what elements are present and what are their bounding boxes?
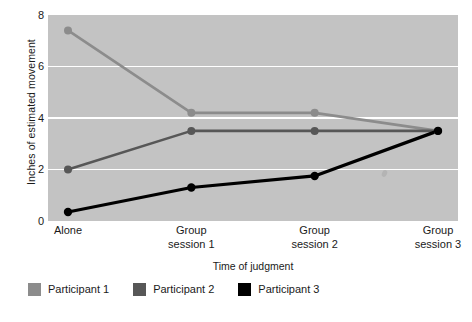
data-point-marker	[187, 183, 195, 191]
legend-item: Participant 1	[28, 283, 109, 296]
y-axis-tick-label: 4	[6, 113, 44, 124]
data-point-marker	[311, 109, 319, 117]
x-axis-tick-label: Alone	[8, 224, 128, 238]
x-axis-tick-labels: AloneGroupsession 1Groupsession 2Groupse…	[48, 224, 458, 258]
legend-label: Participant 1	[48, 284, 109, 295]
y-axis-tick-label: 2	[6, 164, 44, 175]
data-point-marker	[64, 208, 72, 216]
plot-area	[48, 15, 458, 221]
y-axis-tick-labels: 02468	[0, 0, 44, 322]
line-chart-figure: Inches of estimated movement 02468 Alone…	[0, 0, 472, 322]
y-axis-tick-label: 8	[6, 10, 44, 21]
data-point-marker	[64, 26, 72, 34]
x-tick-line-2: session 2	[255, 238, 375, 252]
series-canvas	[48, 15, 458, 221]
data-point-marker	[311, 127, 319, 135]
x-tick-line-1: Alone	[54, 224, 82, 236]
legend-swatch-icon	[238, 283, 251, 296]
data-point-marker	[64, 166, 72, 174]
legend-label: Participant 3	[258, 284, 319, 295]
x-tick-line-2: session 3	[378, 238, 472, 252]
x-axis-tick-label: Groupsession 2	[255, 224, 375, 251]
series-line	[68, 30, 438, 130]
data-point-marker	[187, 109, 195, 117]
x-tick-line-2: session 1	[131, 238, 251, 252]
x-axis-tick-label: Groupsession 3	[378, 224, 472, 251]
data-point-marker	[310, 172, 318, 180]
x-axis-title: Time of judgment	[48, 260, 458, 272]
legend-item: Participant 3	[238, 283, 319, 296]
legend-item: Participant 2	[133, 283, 214, 296]
data-point-marker	[434, 127, 442, 135]
x-tick-line-1: Group	[299, 224, 330, 236]
legend-swatch-icon	[133, 283, 146, 296]
legend-swatch-icon	[28, 283, 41, 296]
data-point-marker	[187, 127, 195, 135]
y-axis-tick-label: 6	[6, 61, 44, 72]
x-tick-line-1: Group	[423, 224, 454, 236]
chart-legend: Participant 1Participant 2Participant 3	[28, 283, 319, 296]
x-tick-line-1: Group	[176, 224, 207, 236]
x-axis-tick-label: Groupsession 1	[131, 224, 251, 251]
legend-label: Participant 2	[153, 284, 214, 295]
series-line	[68, 131, 438, 212]
